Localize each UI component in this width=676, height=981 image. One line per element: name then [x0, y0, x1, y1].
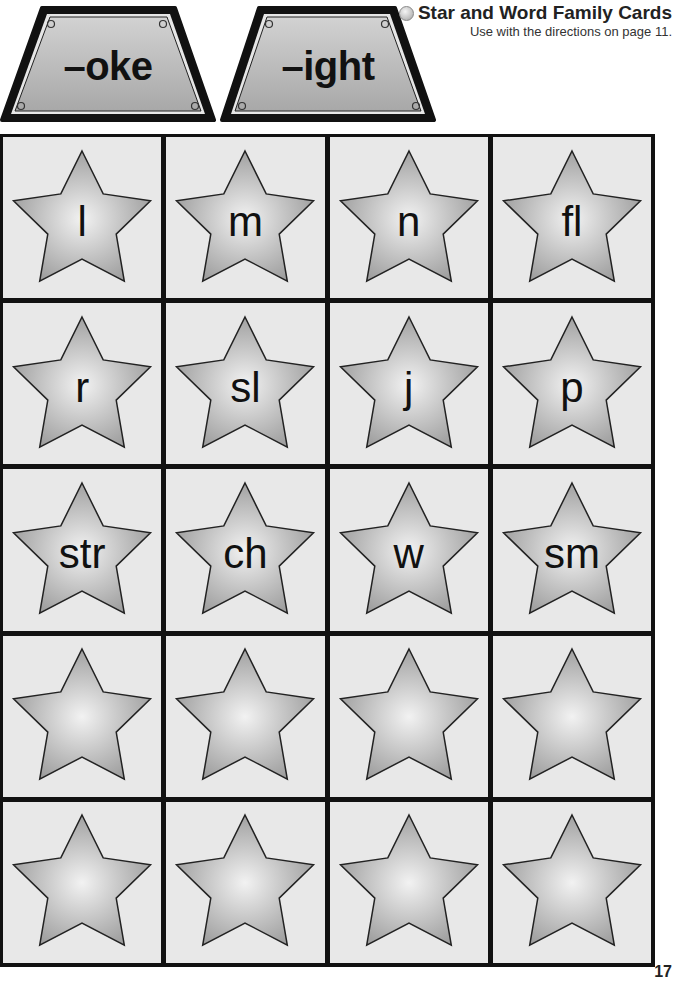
- page-number: 17: [654, 963, 672, 981]
- card-letter: sm: [544, 530, 600, 578]
- sign-label: –ight: [219, 44, 437, 89]
- sign-label: –oke: [0, 44, 216, 89]
- star-card: sl: [166, 303, 324, 464]
- card-letter: l: [77, 198, 86, 246]
- star-card: [166, 802, 324, 963]
- star-icon: [7, 641, 157, 791]
- star-card-grid: lmnflrsljpstrchwsm: [0, 134, 655, 967]
- star-card: w: [330, 469, 488, 630]
- card-letter: m: [228, 198, 263, 246]
- card-letter: sl: [230, 364, 260, 412]
- card-letter: p: [560, 364, 583, 412]
- card-letter: fl: [561, 198, 582, 246]
- star-card: [493, 802, 651, 963]
- star-card: [3, 636, 161, 797]
- star-icon: [497, 807, 647, 957]
- star-icon: [497, 641, 647, 791]
- card-letter: j: [404, 364, 413, 412]
- circle-bullet-icon: [399, 6, 414, 21]
- star-card: [493, 636, 651, 797]
- word-family-sign-oke: –oke: [0, 0, 216, 124]
- card-letter: r: [75, 364, 89, 412]
- star-icon: [334, 641, 484, 791]
- star-card: fl: [493, 137, 651, 298]
- star-icon: [334, 807, 484, 957]
- star-card: [3, 802, 161, 963]
- page-subtitle: Use with the directions on page 11.: [399, 24, 672, 39]
- star-card: l: [3, 137, 161, 298]
- page-header: Star and Word Family Cards Use with the …: [399, 2, 672, 39]
- star-icon: [170, 807, 320, 957]
- star-card: r: [3, 303, 161, 464]
- star-card: j: [330, 303, 488, 464]
- star-card: str: [3, 469, 161, 630]
- star-card: m: [166, 137, 324, 298]
- card-letter: str: [59, 530, 106, 578]
- star-card: [166, 636, 324, 797]
- star-card: p: [493, 303, 651, 464]
- card-letter: n: [397, 198, 420, 246]
- star-card: [330, 802, 488, 963]
- star-icon: [170, 641, 320, 791]
- card-letter: ch: [223, 530, 267, 578]
- star-card: [330, 636, 488, 797]
- star-card: ch: [166, 469, 324, 630]
- card-letter: w: [393, 530, 423, 578]
- star-icon: [7, 807, 157, 957]
- page-title: Star and Word Family Cards: [418, 2, 672, 24]
- star-card: n: [330, 137, 488, 298]
- star-card: sm: [493, 469, 651, 630]
